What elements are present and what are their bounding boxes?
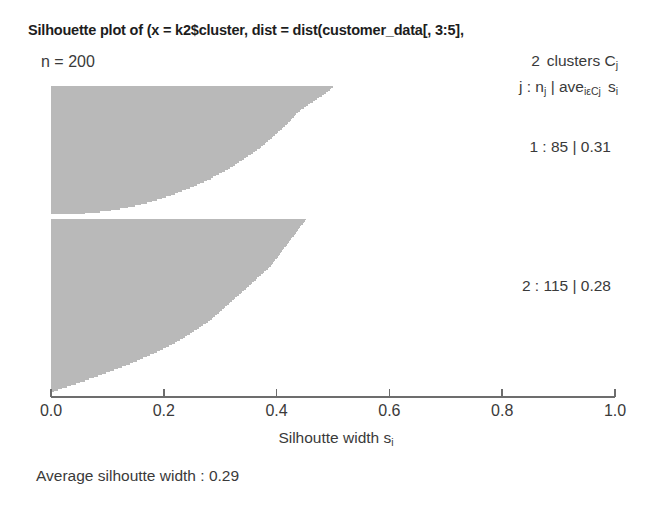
x-axis-tick-label: 0.8 [491,402,513,420]
sample-size-label: n = 200 [41,53,95,71]
x-axis-tick [276,389,278,397]
x-axis-title: Silhoutte width si [0,429,672,448]
legend-formula-c-subscript: i [616,85,618,97]
silhouette-bar [51,213,85,215]
x-axis-line [51,396,615,398]
silhouette-plot-area [51,86,615,392]
x-axis-tick-label: 0.6 [378,402,400,420]
x-axis-title-subscript: i [391,436,393,448]
legend-clusters-text: clusters C [547,52,616,69]
legend-clusters-subscript: j [616,59,618,71]
x-axis-title-text: Silhoutte width s [278,429,391,446]
x-axis-tick [50,389,52,397]
x-axis-tick-label: 0.0 [40,402,62,420]
x-axis-tick-label: 1.0 [604,402,626,420]
x-axis-tick [389,389,391,397]
x-axis-tick [501,389,503,397]
legend-cluster-count: 2 [531,52,540,69]
x-axis-tick [614,389,616,397]
x-axis-tick-label: 0.2 [153,402,175,420]
x-axis-tick [163,389,165,397]
legend-clusters-line: 2clusters Cj [519,50,618,76]
average-silhouette-width-label: Average silhoutte width : 0.29 [36,467,239,485]
page-title: Silhouette plot of (x = k2$cluster, dist… [28,22,668,38]
x-axis-tick-label: 0.4 [265,402,287,420]
